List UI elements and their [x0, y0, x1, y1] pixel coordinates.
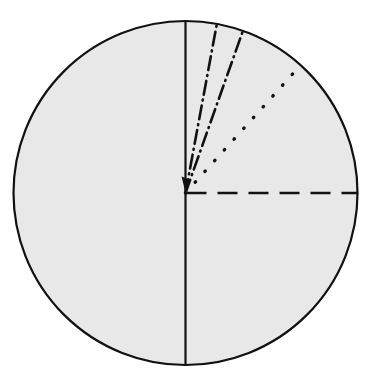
figure-root — [0, 0, 368, 381]
circle-diagram-svg — [0, 0, 368, 381]
